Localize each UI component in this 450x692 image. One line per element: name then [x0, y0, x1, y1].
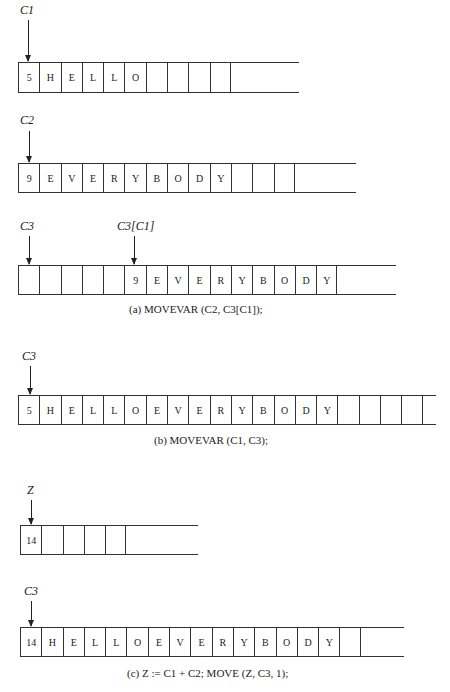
- array-cell: [380, 395, 401, 425]
- array-cell: [41, 525, 62, 555]
- pointer-label-z: Z: [27, 484, 34, 496]
- array-cell: E: [82, 163, 103, 193]
- array-cell: [39, 265, 60, 295]
- array-cell: 14: [20, 525, 41, 555]
- array-cell: D: [295, 265, 316, 295]
- array-cell: Y: [316, 265, 337, 295]
- array-cell: D: [295, 395, 316, 425]
- array-cell: R: [212, 627, 233, 657]
- array-cell: [337, 395, 358, 425]
- pointer-label-c1: C1: [20, 4, 34, 16]
- caption-c: (c) Z := C1 + C2; MOVE (Z, C3, 1);: [127, 667, 288, 679]
- array-cell: L: [103, 62, 124, 93]
- array-cell: R: [210, 395, 231, 425]
- pointer-label-c2: C2: [20, 114, 34, 126]
- array-cell: D: [188, 163, 209, 193]
- string-array-c3-concat: 5HELLOEVERYBODY: [18, 395, 436, 425]
- array-cell: [18, 265, 39, 295]
- array-cell: Y: [210, 163, 231, 193]
- array-open-tail: [231, 62, 299, 93]
- string-array-c3-before: 9EVERYBODY: [18, 265, 396, 295]
- array-cell: Y: [318, 627, 339, 657]
- array-cell: E: [188, 265, 209, 295]
- array-cell: [359, 395, 380, 425]
- string-array-c3-final: 14HELLOEVERYBODY: [20, 627, 404, 657]
- array-cell: E: [61, 395, 82, 425]
- array-cell: O: [274, 265, 295, 295]
- array-cell: L: [82, 62, 103, 93]
- array-cell: 9: [124, 265, 145, 295]
- array-cell: 9: [18, 163, 39, 193]
- array-cell: V: [167, 265, 188, 295]
- length-array-z: 14: [20, 525, 198, 555]
- array-open-tail: [126, 525, 198, 555]
- array-cell: [103, 265, 124, 295]
- array-cell: O: [276, 627, 297, 657]
- array-cell: O: [124, 62, 145, 93]
- string-array-c2: 9EVERYBODY: [18, 163, 356, 193]
- array-cell: E: [63, 627, 84, 657]
- array-cell: [188, 62, 209, 93]
- array-cell: L: [103, 395, 124, 425]
- array-cell: E: [146, 265, 167, 295]
- array-cell: [231, 163, 252, 193]
- array-cell: Y: [124, 163, 145, 193]
- array-cell: [84, 525, 105, 555]
- array-cell: Y: [316, 395, 337, 425]
- array-cell: B: [252, 265, 273, 295]
- pointer-arrow-c3-b: [30, 366, 31, 394]
- pointer-label-c3-b: C3: [22, 350, 36, 362]
- array-cell: Y: [233, 627, 254, 657]
- pointer-arrow-c3: [29, 236, 30, 264]
- array-cell: [63, 525, 84, 555]
- array-cell: R: [103, 163, 124, 193]
- pointer-label-c3-c: C3: [24, 585, 38, 597]
- array-cell: 5: [18, 395, 39, 425]
- array-cell: V: [167, 395, 188, 425]
- array-cell: B: [252, 395, 273, 425]
- array-cell: V: [169, 627, 190, 657]
- array-cell: E: [188, 395, 209, 425]
- array-cell: D: [297, 627, 318, 657]
- array-cell: B: [146, 163, 167, 193]
- array-cell: O: [126, 627, 147, 657]
- array-cell: H: [39, 62, 60, 93]
- array-cell: [252, 163, 273, 193]
- array-cell: E: [148, 627, 169, 657]
- pointer-arrow-c3-c: [31, 601, 32, 626]
- caption-b: (b) MOVEVAR (C1, C3);: [154, 434, 268, 446]
- string-array-c1: 5HELLO: [18, 62, 299, 93]
- array-cell: H: [39, 395, 60, 425]
- array-cell: [401, 395, 422, 425]
- array-cell: [146, 62, 167, 93]
- array-cell: [105, 525, 126, 555]
- array-open-tail: [295, 163, 356, 193]
- array-cell: 5: [18, 62, 39, 93]
- array-cell: H: [41, 627, 62, 657]
- pointer-arrow-c2: [29, 131, 30, 162]
- array-cell: L: [82, 395, 103, 425]
- pointer-arrow-c1: [28, 20, 29, 61]
- array-cell: Y: [231, 265, 252, 295]
- pointer-label-c3: C3: [20, 220, 34, 232]
- array-cell: E: [146, 395, 167, 425]
- array-cell: O: [274, 395, 295, 425]
- array-cell: E: [61, 62, 82, 93]
- array-cell: [61, 265, 82, 295]
- array-cell: [339, 627, 360, 657]
- array-open-tail: [337, 265, 396, 295]
- array-cell: O: [124, 395, 145, 425]
- array-cell: [210, 62, 231, 93]
- array-cell: E: [190, 627, 211, 657]
- array-cell: 14: [20, 627, 41, 657]
- array-cell: B: [254, 627, 275, 657]
- caption-a: (a) MOVEVAR (C2, C3[C1]);: [129, 303, 263, 315]
- array-open-tail: [361, 627, 404, 657]
- array-cell: [82, 265, 103, 295]
- pointer-arrow-z: [31, 500, 32, 524]
- array-cell: [167, 62, 188, 93]
- array-cell: L: [105, 627, 126, 657]
- array-cell: O: [167, 163, 188, 193]
- pointer-label-c3-index-c1: C3[C1]: [117, 220, 154, 232]
- array-cell: R: [210, 265, 231, 295]
